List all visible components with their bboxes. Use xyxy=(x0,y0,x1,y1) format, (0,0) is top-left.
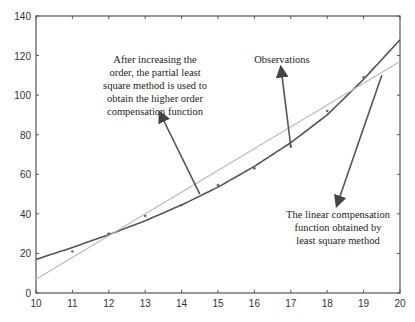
x-tick-label: 16 xyxy=(249,298,261,309)
x-tick-label: 11 xyxy=(67,298,78,309)
x-tick-label: 15 xyxy=(212,298,224,309)
y-tick-label: 40 xyxy=(20,209,32,220)
y-tick-label: 20 xyxy=(20,248,32,259)
annotations: After increasing theorder, the partial l… xyxy=(103,54,391,246)
y-tick-label: 0 xyxy=(25,288,31,299)
y-tick-label: 100 xyxy=(14,90,31,101)
annotation-pls-arrow xyxy=(160,113,200,194)
x-tick-label: 18 xyxy=(322,298,334,309)
linear-fit-line xyxy=(36,62,400,280)
annotation-linear-text: function obtained by xyxy=(295,222,383,233)
x-tick-label: 10 xyxy=(30,298,42,309)
annotation-pls-text: square method is used to xyxy=(103,80,207,91)
x-tick-label: 14 xyxy=(176,298,188,309)
y-tick-label: 60 xyxy=(20,169,32,180)
x-tick-label: 17 xyxy=(285,298,297,309)
x-tick-label: 12 xyxy=(103,298,115,309)
x-tick-label: 20 xyxy=(394,298,406,309)
observation-point xyxy=(326,110,329,113)
x-tick-label: 19 xyxy=(358,298,370,309)
annotation-observations-arrow xyxy=(281,68,291,147)
annotation-pls-text: compensation function xyxy=(107,106,204,117)
annotation-pls-text: order, the partial least xyxy=(109,67,200,78)
plot-frame xyxy=(36,16,400,293)
y-tick-label: 140 xyxy=(14,11,31,22)
annotation-pls-text: After increasing the xyxy=(113,54,197,65)
observation-point xyxy=(71,250,74,253)
y-tick-label: 120 xyxy=(14,51,31,62)
annotation-pls-text: obtain the higher order xyxy=(107,93,203,104)
x-tick-label: 13 xyxy=(140,298,152,309)
y-tick-label: 80 xyxy=(20,130,32,141)
axes: 1011121314151617181920020406080100120140 xyxy=(14,11,406,309)
annotation-linear-text: least square method xyxy=(296,235,380,246)
annotation-linear-text: The linear compensation xyxy=(286,209,391,220)
chart: 1011121314151617181920020406080100120140… xyxy=(0,0,415,322)
annotation-observations-text: Observations xyxy=(254,54,309,65)
